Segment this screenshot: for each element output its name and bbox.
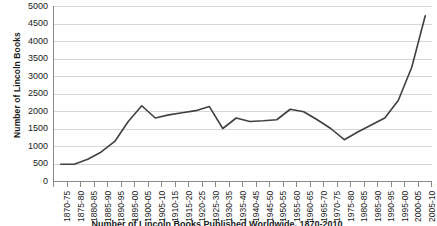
y-axis-tick-label: 500 <box>14 159 48 168</box>
x-axis-tick-mark <box>175 182 176 187</box>
x-axis-tick-mark <box>350 182 351 187</box>
x-axis-tick-label: 1890-95 <box>117 191 126 222</box>
y-axis-tick-label: 2500 <box>14 89 48 98</box>
y-axis-tick-label: 3500 <box>14 54 48 63</box>
x-axis-tick-label: 1965-70 <box>320 191 329 222</box>
y-axis-tick-label: 4000 <box>14 37 48 46</box>
x-axis-tick-mark <box>323 182 324 187</box>
x-axis-tick-mark <box>431 182 432 187</box>
x-axis-tick-mark <box>107 182 108 187</box>
x-axis-tick-label: 1960-65 <box>306 191 315 222</box>
x-axis-tick-mark <box>377 182 378 187</box>
x-axis-tick-label: 1995-00 <box>401 191 410 222</box>
y-axis-tick-labels: 5000450040003500300025002000150010005000 <box>14 0 48 190</box>
x-axis-tick-label: 1955-60 <box>293 191 302 222</box>
x-axis-tick-mark <box>391 182 392 187</box>
x-axis-tick-mark <box>418 182 419 187</box>
x-axis-tick-label: 1980-85 <box>360 191 369 222</box>
x-axis-tick-label: 1925-30 <box>212 191 221 222</box>
x-axis-tick-mark <box>188 182 189 187</box>
y-axis-tick-label: 1500 <box>14 124 48 133</box>
x-axis-tick-label: 1915-20 <box>185 191 194 222</box>
x-axis-tick-label: 1940-45 <box>252 191 261 222</box>
y-axis-tick-label: 4500 <box>14 19 48 28</box>
x-axis-tick-mark <box>242 182 243 187</box>
x-axis-tick-label: 1875-80 <box>77 191 86 222</box>
x-axis-tick-label: 2000-05 <box>414 191 423 222</box>
x-axis-tick-mark <box>215 182 216 187</box>
x-axis-tick-label: 1945-50 <box>266 191 275 222</box>
x-axis-tick-mark <box>364 182 365 187</box>
x-axis-tick-label: 1990-95 <box>387 191 396 222</box>
x-axis-tick-mark <box>229 182 230 187</box>
x-axis-tick-mark <box>202 182 203 187</box>
y-axis-tick-label: 0 <box>14 177 48 186</box>
x-axis-tick-mark <box>283 182 284 187</box>
x-axis-tick-label: 1910-15 <box>171 191 180 222</box>
x-axis-tick-mark <box>269 182 270 187</box>
x-axis-tick-mark <box>67 182 68 187</box>
x-axis-tick-label: 1880-85 <box>90 191 99 222</box>
x-axis-tick-mark <box>121 182 122 187</box>
x-axis-tick-label: 1870-75 <box>63 191 72 222</box>
x-axis-tick-label: 1975-80 <box>347 191 356 222</box>
x-axis-tick-mark <box>53 182 54 187</box>
x-axis-tick-mark <box>148 182 149 187</box>
x-axis-tick-label: 1885-90 <box>104 191 113 222</box>
x-axis-tick-mark <box>161 182 162 187</box>
x-axis-tick-mark <box>134 182 135 187</box>
y-axis-tick-label: 5000 <box>14 2 48 11</box>
x-axis-tick-label: 1895-00 <box>131 191 140 222</box>
x-axis-tick-label: 1905-10 <box>158 191 167 222</box>
y-axis-tick-label: 3000 <box>14 72 48 81</box>
x-axis-tick-mark <box>80 182 81 187</box>
plot-area <box>53 6 432 182</box>
x-axis-tick-label: 2005-10 <box>428 191 437 222</box>
x-axis-tick-label: 1950-55 <box>279 191 288 222</box>
x-axis-tick-mark <box>94 182 95 187</box>
x-axis-tick-label: 1970-75 <box>333 191 342 222</box>
x-axis-tick-label: 1930-35 <box>225 191 234 222</box>
x-axis-tick-mark <box>296 182 297 187</box>
x-axis-tick-mark <box>256 182 257 187</box>
data-series-line <box>54 6 432 181</box>
y-axis-tick-label: 2000 <box>14 107 48 116</box>
x-axis-tick-label: 1920-25 <box>198 191 207 222</box>
x-axis-tick-mark <box>337 182 338 187</box>
x-axis-tick-mark <box>404 182 405 187</box>
x-axis-tick-label: 1935-40 <box>239 191 248 222</box>
y-axis-tick-label: 1000 <box>14 142 48 151</box>
x-axis-tick-label: 1985-90 <box>374 191 383 222</box>
x-axis-tick-label: 1900-05 <box>144 191 153 222</box>
x-axis-tick-mark <box>310 182 311 187</box>
chart-caption: Number of Lincoln Books Published Worldw… <box>0 219 434 226</box>
